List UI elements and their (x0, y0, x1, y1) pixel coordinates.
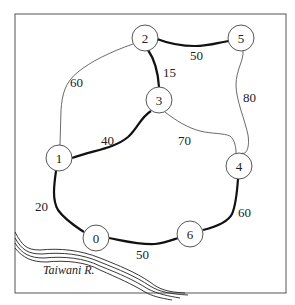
weight-label: 20 (35, 199, 48, 214)
weight-label: 60 (70, 75, 83, 90)
svg-text:2: 2 (142, 31, 149, 46)
weight-label: 50 (136, 247, 149, 262)
river-label: Taiwani R. (43, 263, 95, 277)
node-3: 3 (146, 87, 172, 113)
node-6: 6 (177, 221, 203, 247)
node-1: 1 (46, 145, 72, 171)
weight-label: 70 (178, 133, 191, 148)
node-2: 2 (132, 25, 158, 51)
edge-2-1 (60, 44, 133, 145)
svg-text:1: 1 (56, 151, 63, 166)
edge-0-6 (109, 238, 178, 244)
svg-text:4: 4 (236, 159, 243, 174)
weight-label: 60 (238, 205, 251, 220)
node-5: 5 (228, 25, 254, 51)
weight-label: 40 (101, 133, 114, 148)
weight-label: 50 (190, 48, 203, 63)
svg-text:3: 3 (156, 93, 163, 108)
edge-2-5 (157, 39, 229, 46)
weight-label: 15 (163, 65, 176, 80)
svg-text:0: 0 (93, 231, 100, 246)
graph-diagram: 50 15 60 80 40 70 20 50 60 Taiwani R. 0 … (0, 0, 295, 305)
node-0: 0 (83, 225, 109, 251)
edge-2-3 (148, 50, 159, 87)
edge-6-4 (203, 179, 238, 230)
weight-label: 80 (243, 90, 256, 105)
svg-text:6: 6 (187, 227, 194, 242)
edge-1-0 (54, 171, 84, 232)
svg-text:5: 5 (238, 31, 245, 46)
edge-3-4 (165, 112, 236, 153)
node-4: 4 (226, 153, 252, 179)
